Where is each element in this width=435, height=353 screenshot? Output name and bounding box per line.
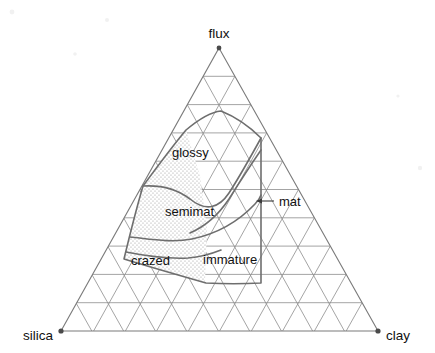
vertex-dot-silica bbox=[58, 328, 63, 333]
region-label-semimat: semimat bbox=[165, 204, 215, 219]
corner-label-silica: silica bbox=[23, 328, 53, 343]
ternary-diagram: flux silica clay glossy semimat mat craz… bbox=[0, 0, 435, 353]
vertex-dot-flux bbox=[217, 46, 222, 51]
region-label-glossy: glossy bbox=[172, 145, 209, 160]
grid-lines-horizontal bbox=[76, 76, 362, 302]
region-label-crazed: crazed bbox=[131, 253, 170, 268]
corner-label-flux: flux bbox=[208, 26, 229, 41]
ternary-diagram-canvas: flux silica clay glossy semimat mat craz… bbox=[0, 0, 435, 353]
region-label-mat: mat bbox=[279, 194, 301, 209]
region-label-immature: immature bbox=[203, 252, 257, 267]
vertex-dot-clay bbox=[375, 328, 380, 333]
corner-label-clay: clay bbox=[386, 328, 410, 343]
